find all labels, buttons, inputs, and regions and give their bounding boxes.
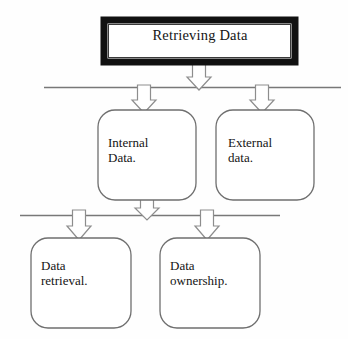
arrow-upper-separator-to-internal [132,85,156,113]
node-external-data-box[interactable] [216,110,314,200]
node-data-retrieval-box[interactable] [31,238,131,328]
arrow-lower-separator-to-ownership [195,210,219,240]
node-internal-data-box[interactable] [98,110,196,200]
diagram-graphics [0,0,348,339]
node-root-box[interactable] [104,20,295,62]
node-data-ownership-box[interactable] [160,238,260,328]
arrow-upper-separator-to-external [250,85,274,113]
arrow-lower-separator-to-retrieval [67,210,91,240]
diagram-canvas: Retrieving Data Internal Data. External … [0,0,348,339]
